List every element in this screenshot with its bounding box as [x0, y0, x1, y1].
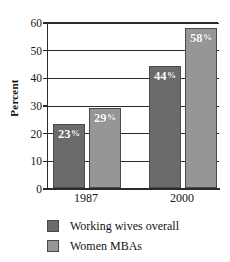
bar-value-label: 58% [186, 32, 216, 45]
y-tick-label: 20 [31, 128, 43, 140]
legend-item[interactable]: Women MBAs [47, 236, 227, 256]
y-axis-tick [43, 50, 48, 51]
x-tick-label-1987: 1987 [74, 191, 98, 206]
chart-legend: Working wives overall Women MBAs [47, 216, 227, 256]
bar: 29% [89, 108, 121, 188]
legend-label-working-wives-overall: Working wives overall [70, 219, 179, 234]
y-tick-label: 40 [31, 72, 43, 84]
bar: 23% [53, 124, 85, 188]
y-tick-label: 0 [36, 183, 42, 195]
legend-label-women-mbas: Women MBAs [70, 239, 142, 254]
legend-swatch-working-wives-overall [47, 220, 59, 232]
y-tick-label: 10 [31, 155, 43, 167]
y-axis-tick [43, 105, 48, 106]
bar-value-label: 44% [150, 70, 180, 83]
y-axis-tick [43, 161, 48, 162]
y-axis-tick [43, 78, 48, 79]
bar-value-label: 23% [54, 128, 84, 141]
y-axis-tick [43, 133, 48, 134]
x-axis-line [47, 188, 220, 190]
y-tick-label: 30 [31, 100, 43, 112]
bar-chart: Percent 010203040506023%29%44%58% Workin… [0, 0, 230, 262]
bar-value-label: 29% [90, 112, 120, 125]
legend-item[interactable]: Working wives overall [47, 216, 227, 236]
y-tick-label: 60 [31, 17, 43, 29]
gridline [48, 23, 219, 24]
bar: 58% [185, 28, 217, 188]
y-tick-label: 50 [31, 45, 43, 57]
y-axis-title: Percent [8, 58, 20, 138]
bar: 44% [149, 66, 181, 188]
legend-swatch-women-mbas [47, 240, 59, 252]
plot-area: 010203040506023%29%44%58% [47, 22, 218, 188]
x-tick-label-2000: 2000 [170, 191, 194, 206]
y-axis-tick [43, 22, 48, 23]
